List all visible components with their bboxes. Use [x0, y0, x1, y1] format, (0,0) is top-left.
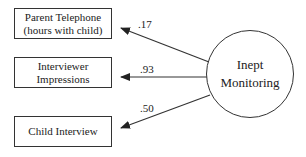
- indicator-label-line2: (hours with child): [24, 24, 103, 37]
- indicator-child-interview: Child Interview: [14, 116, 112, 147]
- arrow-child-interview: [121, 95, 210, 128]
- latent-label-line2: Monitoring: [220, 74, 279, 92]
- indicator-label-line1: Child Interview: [28, 125, 97, 138]
- indicator-label-line2: Impressions: [36, 73, 89, 86]
- latent-label-line1: Inept: [237, 56, 264, 74]
- indicator-interviewer-impressions: Interviewer Impressions: [14, 57, 112, 88]
- arrow-parent-telephone: [121, 28, 209, 62]
- loading-child-interview: .50: [140, 102, 154, 114]
- indicator-parent-telephone: Parent Telephone (hours with child): [14, 8, 112, 39]
- loading-interviewer-impressions: .93: [140, 63, 154, 75]
- latent-inept-monitoring: Inept Monitoring: [206, 30, 294, 118]
- indicator-label-line1: Parent Telephone: [25, 11, 101, 24]
- loading-parent-telephone: .17: [138, 18, 152, 30]
- indicator-label-line1: Interviewer: [38, 60, 89, 73]
